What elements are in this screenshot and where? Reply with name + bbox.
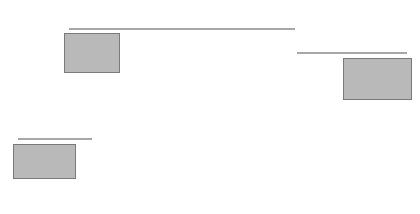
creativity-cube-diagram	[0, 0, 420, 214]
dimension-two-box	[343, 58, 412, 100]
dimension-three-box	[13, 144, 76, 179]
dimension-one-box	[64, 33, 120, 73]
